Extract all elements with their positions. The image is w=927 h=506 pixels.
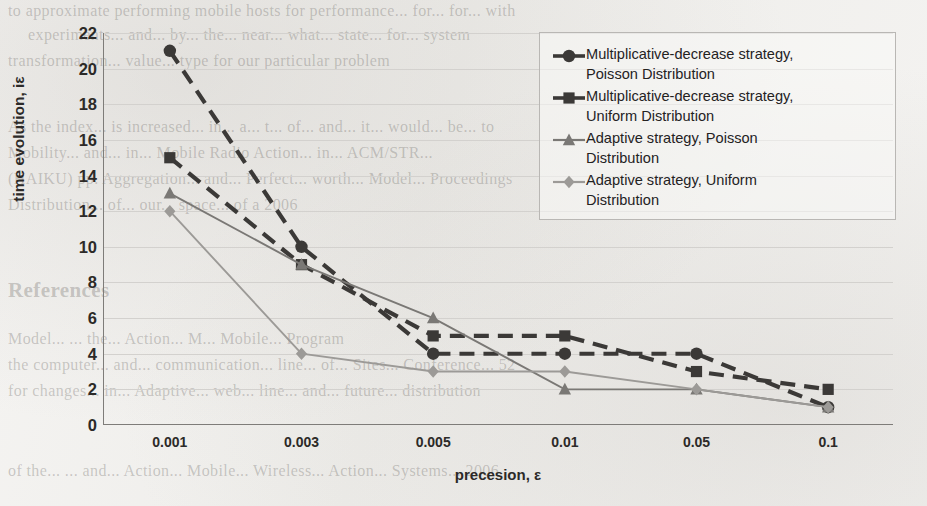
diamond-marker <box>428 365 439 377</box>
y-axis-tick-label: 20 <box>79 59 97 78</box>
y-axis-tick-label: 4 <box>88 344 97 363</box>
gridline <box>104 282 893 283</box>
series-line <box>170 193 828 407</box>
series-layer <box>104 33 404 183</box>
y-axis-tick-label: 6 <box>88 309 97 328</box>
x-axis-tick-label: 0.1 <box>818 434 837 450</box>
y-axis-tick-label: 8 <box>88 273 97 292</box>
diamond-marker <box>559 365 570 377</box>
legend-item-label: Multiplicative-decrease strategy, Unifor… <box>586 87 793 126</box>
y-axis-tick-label: 18 <box>79 95 97 114</box>
legend-item-label: Adaptive strategy, Uniform Distribution <box>586 171 757 210</box>
legend-item-1[interactable]: Multiplicative-decrease strategy, Unifor… <box>552 87 889 126</box>
y-axis-label: time evolution, iε <box>10 76 28 201</box>
legend-item-label: Multiplicative-decrease strategy, Poisso… <box>586 45 793 84</box>
diamond-legend-icon <box>552 172 586 191</box>
y-axis-tick-label: 0 <box>88 416 97 435</box>
x-axis-tick-label: 0.005 <box>416 434 451 450</box>
legend-item-0[interactable]: Multiplicative-decrease strategy, Poisso… <box>552 45 889 84</box>
x-axis-tick-label: 0.001 <box>152 434 187 450</box>
y-axis-tick-label: 12 <box>79 202 97 221</box>
square-marker <box>559 330 570 341</box>
circle-marker <box>295 241 307 253</box>
y-axis-tick-label: 10 <box>79 237 97 256</box>
y-axis-tick-label: 2 <box>88 380 97 399</box>
square-marker <box>563 92 574 103</box>
x-axis-tick-label: 0.003 <box>284 434 319 450</box>
legend-item-label: Adaptive strategy, Poisson Distribution <box>586 129 758 168</box>
circle-marker <box>559 348 571 360</box>
gridline <box>104 389 893 390</box>
square-marker <box>428 330 439 341</box>
chart-legend: Multiplicative-decrease strategy, Poisso… <box>539 32 896 220</box>
triangle-legend-icon <box>552 130 586 149</box>
diamond-marker <box>563 176 574 188</box>
square-marker <box>691 366 702 377</box>
circle-legend-icon <box>552 46 586 65</box>
gridline <box>104 318 893 319</box>
triangle-marker <box>164 187 176 199</box>
square-marker <box>164 152 175 163</box>
legend-item-2[interactable]: Adaptive strategy, Poisson Distribution <box>552 129 889 168</box>
square-legend-icon <box>552 88 586 107</box>
circle-marker <box>563 50 575 62</box>
square-marker <box>823 384 834 395</box>
y-axis-tick-label: 22 <box>79 24 97 43</box>
legend-item-3[interactable]: Adaptive strategy, Uniform Distribution <box>552 171 889 210</box>
line-chart: time evolution, iε 2220181614121086420 0… <box>0 0 927 506</box>
x-axis-tick-label: 0.01 <box>551 434 578 450</box>
x-axis-label: precesion, ε <box>103 466 893 483</box>
circle-marker <box>427 348 439 360</box>
x-axis-tick-label: 0.05 <box>683 434 710 450</box>
circle-marker <box>164 45 176 57</box>
y-axis-tick-label: 16 <box>79 130 97 149</box>
y-axis-tick-label: 14 <box>79 166 97 185</box>
circle-marker <box>690 348 702 360</box>
gridline <box>104 247 893 248</box>
